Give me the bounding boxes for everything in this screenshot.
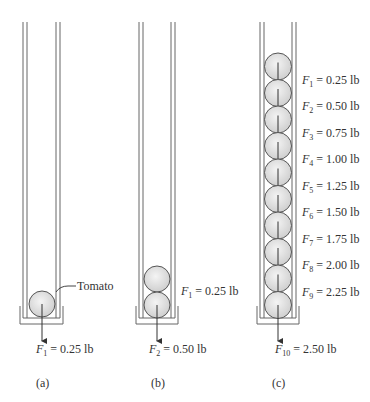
caption-b: (b) xyxy=(151,376,165,390)
caption-c: (c) xyxy=(272,376,285,390)
side-force-label: F4= 1.00 lb xyxy=(301,152,359,168)
bottom-force-label: F10= 2.50 lb xyxy=(274,342,336,358)
side-force-label: F5= 1.25 lb xyxy=(301,179,359,195)
side-force-label: F6= 1.50 lb xyxy=(301,205,359,221)
panel-b: F1= 0.25 lb F2= 0.50 lb (b) xyxy=(136,22,238,390)
bottom-force-label: F1= 0.25 lb xyxy=(35,342,93,358)
tube-a xyxy=(20,22,63,324)
caption-a: (a) xyxy=(36,376,49,390)
side-force-label: F7= 1.75 lb xyxy=(301,232,359,248)
tomato-icon xyxy=(144,266,170,292)
side-force-label: F2= 0.50 lb xyxy=(301,99,359,115)
panel-c: F1= 0.25 lbF2= 0.50 lbF3= 0.75 lbF4= 1.0… xyxy=(257,22,359,390)
side-force-label: F9= 2.25 lb xyxy=(301,285,359,301)
tomato-stack xyxy=(265,53,292,319)
tomato-callout: Tomato xyxy=(77,279,114,293)
tomato-stack-diagram: Tomato F1= 0.25 lb (a) F1= 0.25 lb F2= 0… xyxy=(0,0,370,402)
bottom-force-label: F2= 0.50 lb xyxy=(148,342,206,358)
side-force-label: F1= 0.25 lb xyxy=(301,73,359,89)
side-force-label: F8= 2.00 lb xyxy=(301,258,359,274)
panel-a: Tomato F1= 0.25 lb (a) xyxy=(20,22,114,390)
side-force-labels: F1= 0.25 lbF2= 0.50 lbF3= 0.75 lbF4= 1.0… xyxy=(301,73,359,301)
side-force-label: F1= 0.25 lb xyxy=(180,284,238,300)
side-force-label: F3= 0.75 lb xyxy=(301,126,359,142)
